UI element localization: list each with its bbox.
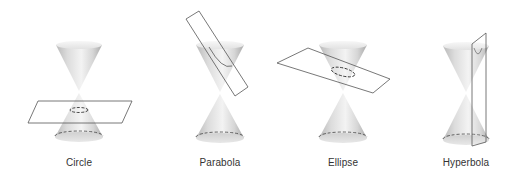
conic-sections-figure xyxy=(0,0,505,179)
lower-base xyxy=(319,133,367,143)
label-parabola: Parabola xyxy=(200,157,241,168)
upper-rim xyxy=(319,41,367,49)
cutting-plane xyxy=(472,33,486,146)
hyperbola-panel xyxy=(443,33,489,146)
circle-panel xyxy=(28,41,132,142)
upper-nappe xyxy=(56,45,102,91)
lower-nappe xyxy=(319,93,367,138)
parabola-panel xyxy=(186,11,248,143)
lower-nappe xyxy=(196,94,244,138)
lower-base xyxy=(196,133,244,143)
label-ellipse: Ellipse xyxy=(328,157,358,168)
lower-base xyxy=(55,132,103,142)
ellipse-panel xyxy=(277,41,390,143)
label-hyperbola: Hyperbola xyxy=(443,157,489,168)
label-circle: Circle xyxy=(66,157,92,168)
upper-rim xyxy=(56,41,102,49)
cutting-plane xyxy=(28,101,132,123)
